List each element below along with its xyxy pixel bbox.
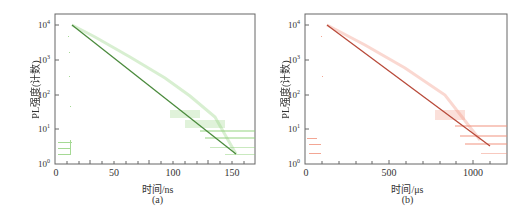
- svg-text:104: 104: [38, 19, 50, 30]
- x-ticks: [67, 160, 244, 164]
- svg-text:104: 104: [288, 19, 300, 30]
- svg-text:50: 50: [109, 167, 119, 178]
- svg-text:100: 100: [38, 158, 50, 169]
- y-axis-label: PL强度(计数): [27, 45, 42, 135]
- x-tick-labels: 05001000: [304, 167, 484, 178]
- fit-line: [72, 25, 236, 154]
- svg-text:500: 500: [382, 167, 397, 178]
- plot-frame: [305, 14, 507, 164]
- panel-sublabel: (b): [275, 194, 530, 205]
- svg-text:1000: 1000: [463, 167, 483, 178]
- svg-text:0: 0: [54, 167, 59, 178]
- panel-a: 104 103 102 101 100 050 100150 PL强度(计数) …: [0, 0, 265, 214]
- svg-text:100: 100: [166, 167, 181, 178]
- y-axis-label: PL强度(计数): [277, 45, 292, 135]
- panel-b: 104 103 102 101 100 05001000 PL强度(计数) 时间…: [265, 0, 530, 214]
- panel-sublabel: (a): [25, 194, 290, 205]
- svg-text:100: 100: [288, 158, 300, 169]
- svg-text:150: 150: [225, 167, 240, 178]
- x-ticks: [322, 160, 490, 164]
- fit-line: [327, 25, 490, 146]
- x-tick-labels: 050 100150: [54, 167, 240, 178]
- y-ticks: [55, 25, 59, 129]
- svg-text:0: 0: [304, 167, 309, 178]
- y-ticks: [305, 25, 309, 129]
- plot-frame: [55, 14, 255, 164]
